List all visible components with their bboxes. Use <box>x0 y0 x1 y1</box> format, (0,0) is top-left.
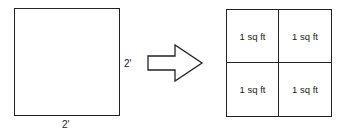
cell-label: 1 sq ft <box>292 84 318 95</box>
cell-label: 1 sq ft <box>240 31 266 42</box>
right-arrow-icon <box>146 43 206 83</box>
grid-cell: 1 sq ft <box>279 10 331 63</box>
grid-cell: 1 sq ft <box>279 63 331 116</box>
cell-label: 1 sq ft <box>240 84 266 95</box>
divided-square: 1 sq ft 1 sq ft 1 sq ft 1 sq ft <box>226 9 332 117</box>
grid-cell: 1 sq ft <box>227 63 279 116</box>
original-square <box>14 8 120 116</box>
bottom-dimension-label: 2' <box>62 119 69 130</box>
side-dimension-label: 2' <box>124 58 131 69</box>
cell-label: 1 sq ft <box>292 31 318 42</box>
grid-cell: 1 sq ft <box>227 10 279 63</box>
